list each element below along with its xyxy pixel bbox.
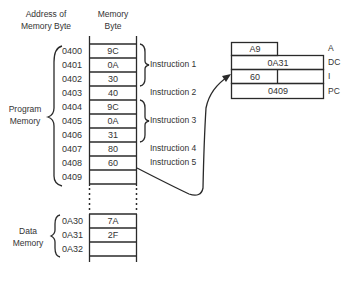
memory-cell: 9C — [90, 44, 136, 58]
instruction-2-label: Instruction 2 — [150, 87, 196, 97]
program-memory-brace — [48, 46, 62, 186]
data-memory-label: Data Memory — [6, 225, 50, 249]
program-memory-label-line2: Memory — [2, 115, 48, 127]
register-dc-name: DC — [328, 57, 340, 67]
instruction-5-label: Instruction 5 — [150, 157, 196, 167]
memory-cell: 2F — [90, 228, 136, 242]
memory-cell: 30 — [90, 72, 136, 86]
register-a-name: A — [328, 43, 334, 53]
register-i-value: 60 — [232, 70, 278, 84]
register-pc-name: PC — [328, 86, 340, 96]
memory-cell: 40 — [90, 86, 136, 100]
register-pc-value: 0409 — [232, 84, 324, 99]
register-a-value: A9 — [232, 43, 278, 56]
memory-cell: 9C — [90, 100, 136, 114]
program-memory-cells: 9C 0A 30 40 9C 0A 31 80 60 — [90, 44, 136, 184]
register-i-name: I — [328, 71, 330, 81]
instruction-3-label: Instruction 3 — [150, 115, 196, 125]
diagram-lines — [0, 0, 354, 282]
instruction-1-label: Instruction 1 — [150, 59, 196, 69]
data-memory-label-line1: Data — [6, 225, 50, 237]
memory-cell: 7A — [90, 214, 136, 228]
data-memory-cells: 7A 2F — [90, 214, 136, 256]
memory-cell — [90, 242, 136, 256]
memory-cell — [90, 170, 136, 184]
program-memory-label-line1: Program — [2, 103, 48, 115]
memory-cell: 0A — [90, 58, 136, 72]
memory-cell: 0A — [90, 114, 136, 128]
register-dc-value: 0A31 — [232, 56, 324, 70]
instruction-4-label: Instruction 4 — [150, 143, 196, 153]
instruction-1-brace — [140, 44, 149, 86]
data-memory-brace — [51, 215, 60, 257]
memory-cell: 60 — [90, 156, 136, 170]
data-memory-label-line2: Memory — [6, 237, 50, 249]
memory-cell: 31 — [90, 128, 136, 142]
program-memory-label: Program Memory — [2, 103, 48, 127]
instruction-3-brace — [140, 100, 149, 142]
memory-cell: 80 — [90, 142, 136, 156]
